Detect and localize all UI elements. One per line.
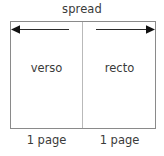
verso-page-label: verso	[10, 61, 83, 75]
verso-page: verso	[10, 21, 83, 129]
spread-label: spread	[0, 2, 164, 17]
recto-page: recto	[83, 21, 156, 129]
recto-page-count-label: 1 page	[83, 133, 156, 148]
verso-page-count-label: 1 page	[10, 133, 83, 148]
recto-page-label: recto	[83, 61, 156, 75]
book-spread-diagram: spread verso recto 1 page 1 page	[0, 0, 164, 156]
